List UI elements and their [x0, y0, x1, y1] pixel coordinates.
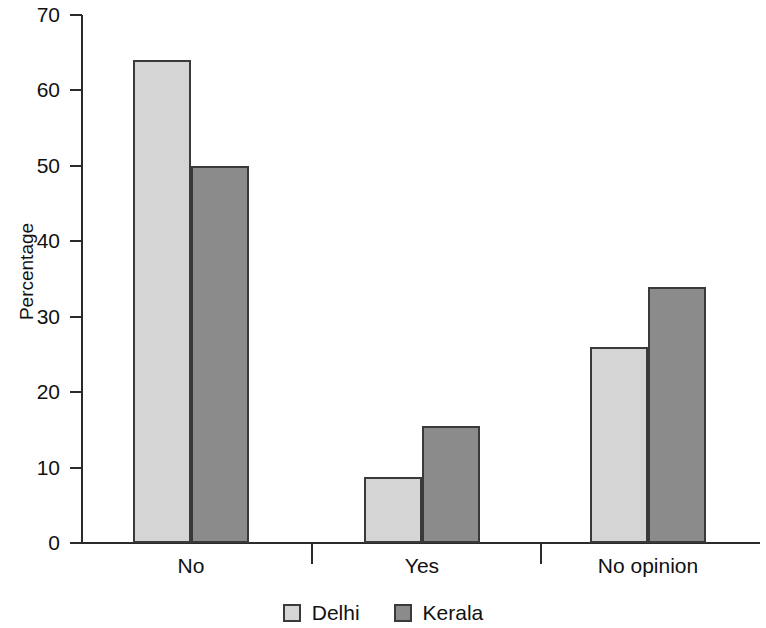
bar: [191, 166, 249, 543]
legend-swatch: [394, 604, 412, 622]
y-axis-tick: 30: [0, 316, 82, 318]
y-axis-tick: 50: [0, 165, 82, 167]
y-axis-tick-label: 20: [0, 381, 60, 402]
bar: [590, 347, 648, 543]
legend-item: Kerala: [394, 602, 484, 623]
y-axis-line: [81, 15, 83, 544]
y-axis-tick: 70: [0, 14, 82, 16]
legend-swatch: [283, 604, 301, 622]
bar-chart: Percentage 010203040506070 NoYesNo opini…: [0, 0, 766, 628]
y-axis-tick-label: 70: [0, 4, 60, 25]
y-axis-tick-label: 40: [0, 230, 60, 251]
y-axis-tick: 60: [0, 89, 82, 91]
y-axis-tick-label: 50: [0, 155, 60, 176]
x-axis-category-label: No: [71, 554, 311, 578]
y-axis-tick-label: 60: [0, 79, 60, 100]
x-axis-category-label: No opinion: [528, 554, 766, 578]
y-axis-title: Percentage: [17, 192, 36, 352]
legend-item: Delhi: [283, 602, 360, 623]
bar: [133, 60, 191, 543]
legend: DelhiKerala: [0, 602, 766, 623]
bar: [364, 477, 422, 543]
legend-label: Kerala: [423, 602, 484, 623]
y-axis-tick: 40: [0, 240, 82, 242]
bar: [648, 287, 706, 543]
y-axis-tick-label: 0: [0, 532, 60, 553]
y-axis-tick-label: 10: [0, 457, 60, 478]
y-axis-tick-label: 30: [0, 306, 60, 327]
legend-label: Delhi: [312, 602, 360, 623]
bar: [422, 426, 480, 543]
x-axis-category-label: Yes: [302, 554, 542, 578]
y-axis-tick: 0: [0, 542, 82, 544]
y-axis-tick: 20: [0, 391, 82, 393]
y-axis-tick: 10: [0, 467, 82, 469]
